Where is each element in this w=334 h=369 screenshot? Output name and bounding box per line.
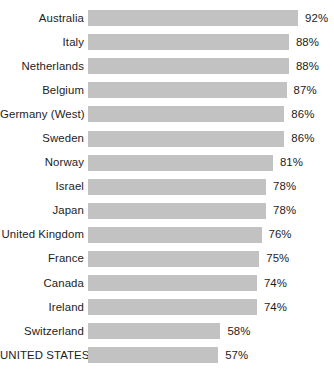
category-label: Germany (West) [0, 108, 88, 121]
bar-track: 88% [88, 54, 334, 78]
chart-row: Netherlands88% [0, 54, 334, 78]
bar-track: 57% [88, 343, 334, 367]
bar-value-label: 92% [298, 12, 328, 25]
chart-row: Italy88% [0, 30, 334, 54]
bar [88, 155, 273, 171]
category-label: Japan [0, 204, 88, 217]
horizontal-bar-chart: Australia92%Italy88%Netherlands88%Belgiu… [0, 0, 334, 369]
chart-row: Norway81% [0, 151, 334, 175]
bar [88, 299, 257, 315]
bar-track: 74% [88, 271, 334, 295]
bar-value-label: 57% [218, 349, 248, 362]
category-label: UNITED STATES [0, 349, 88, 362]
chart-row: Japan78% [0, 199, 334, 223]
category-label: Netherlands [0, 60, 88, 73]
category-label: Sweden [0, 132, 88, 145]
bar-value-label: 81% [273, 156, 303, 169]
bar-track: 86% [88, 102, 334, 126]
category-label: France [0, 252, 88, 265]
bar-value-label: 88% [289, 60, 319, 73]
bar [88, 34, 289, 50]
bar-track: 88% [88, 30, 334, 54]
bar-track: 86% [88, 126, 334, 150]
bar-value-label: 86% [284, 132, 314, 145]
bar-track: 92% [88, 6, 334, 30]
bar [88, 227, 262, 243]
bar-track: 74% [88, 295, 334, 319]
bar-value-label: 88% [289, 36, 319, 49]
category-label: Israel [0, 180, 88, 193]
chart-row: Germany (West)86% [0, 102, 334, 126]
bar-track: 78% [88, 199, 334, 223]
chart-row: Belgium87% [0, 78, 334, 102]
bar [88, 323, 220, 339]
bar-track: 81% [88, 151, 334, 175]
bar-track: 76% [88, 223, 334, 247]
category-label: United Kingdom [0, 228, 88, 241]
bar-value-label: 86% [284, 108, 314, 121]
chart-row: UNITED STATES57% [0, 343, 334, 367]
chart-row: Israel78% [0, 175, 334, 199]
bar-value-label: 78% [266, 180, 296, 193]
bar-value-label: 78% [266, 204, 296, 217]
chart-row: Sweden86% [0, 126, 334, 150]
category-label: Norway [0, 156, 88, 169]
bar [88, 347, 218, 363]
bar-track: 75% [88, 247, 334, 271]
bar-value-label: 76% [262, 228, 292, 241]
bar [88, 131, 284, 147]
chart-row: France75% [0, 247, 334, 271]
bar-value-label: 74% [257, 277, 287, 290]
category-label: Canada [0, 277, 88, 290]
chart-row: United Kingdom76% [0, 223, 334, 247]
bar [88, 179, 266, 195]
bar [88, 203, 266, 219]
chart-row: Canada74% [0, 271, 334, 295]
bar-value-label: 58% [220, 325, 250, 338]
chart-row: Australia92% [0, 6, 334, 30]
bar [88, 82, 287, 98]
bar-value-label: 87% [287, 84, 317, 97]
category-label: Belgium [0, 84, 88, 97]
bar-track: 78% [88, 175, 334, 199]
chart-row: Ireland74% [0, 295, 334, 319]
bar-track: 58% [88, 319, 334, 343]
category-label: Ireland [0, 301, 88, 314]
bar [88, 275, 257, 291]
category-label: Switzerland [0, 325, 88, 338]
bar-value-label: 74% [257, 301, 287, 314]
bar [88, 106, 284, 122]
bar [88, 10, 298, 26]
bar [88, 58, 289, 74]
category-label: Italy [0, 36, 88, 49]
category-label: Australia [0, 12, 88, 25]
chart-row: Switzerland58% [0, 319, 334, 343]
bar-track: 87% [88, 78, 334, 102]
bar [88, 251, 259, 267]
bar-value-label: 75% [259, 252, 289, 265]
